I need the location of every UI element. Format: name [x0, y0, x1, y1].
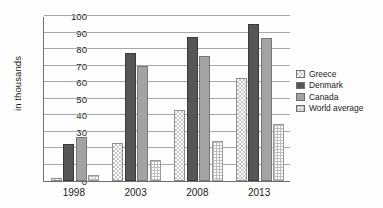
chart-legend: GreeceDenmarkCanadaWorld average — [296, 68, 363, 114]
gridline — [44, 15, 290, 16]
x-tick-label: 2008 — [162, 187, 232, 198]
x-tick-label: 2013 — [224, 187, 294, 198]
bar — [63, 144, 74, 181]
plot-area — [43, 17, 290, 182]
bar-chart: in thousands 0102030405060708090100 1998… — [0, 0, 383, 208]
legend-swatch-icon — [296, 70, 305, 78]
bar-group — [229, 17, 291, 181]
bar — [174, 110, 185, 181]
x-tick-label: 1998 — [39, 187, 109, 198]
bar — [187, 37, 198, 181]
bar — [125, 53, 136, 181]
legend-swatch-icon — [296, 105, 305, 113]
y-axis-title: in thousands — [12, 39, 23, 129]
bar — [88, 175, 99, 181]
bar — [236, 78, 247, 181]
bar — [76, 137, 87, 181]
legend-item: Greece — [296, 68, 363, 80]
bar — [51, 178, 62, 181]
legend-label: Denmark — [309, 81, 343, 89]
legend-label: World average — [309, 104, 363, 112]
bar — [212, 141, 223, 181]
bar — [248, 24, 259, 181]
bar — [112, 143, 123, 181]
legend-item: Denmark — [296, 80, 363, 92]
legend-label: Canada — [309, 93, 338, 101]
legend-swatch-icon — [296, 93, 305, 101]
bar — [137, 66, 148, 182]
legend-swatch-icon — [296, 82, 305, 90]
x-tick-label: 2003 — [101, 187, 171, 198]
legend-item: Canada — [296, 91, 363, 103]
bar — [261, 38, 272, 181]
bar — [150, 160, 161, 181]
bar-group — [106, 17, 168, 181]
bar-group — [168, 17, 230, 181]
bar — [199, 56, 210, 181]
bar — [273, 124, 284, 181]
legend-label: Greece — [309, 70, 336, 78]
bar-group — [44, 17, 106, 181]
legend-item: World average — [296, 103, 363, 115]
